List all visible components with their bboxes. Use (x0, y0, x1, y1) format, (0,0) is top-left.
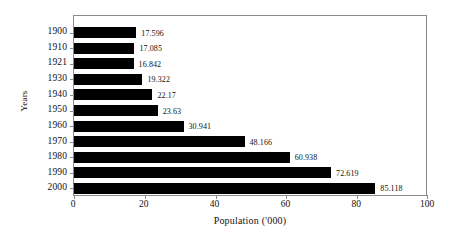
bar-value-label: 60.938 (295, 153, 318, 162)
bar-value-label: 17.596 (141, 28, 164, 37)
x-axis-tick-label: 80 (351, 199, 361, 209)
bar-value-label: 85.118 (380, 184, 402, 193)
bar-row: 19.322 (74, 72, 426, 88)
x-axis-title: Population ('000) (73, 215, 427, 226)
bar-row: 17.596 (74, 25, 426, 41)
bar-value-label: 17.085 (139, 44, 162, 53)
x-axis-tick-label: 60 (281, 199, 291, 209)
bar-chart: Years 1900191019211930194019501960197019… (0, 0, 460, 240)
y-axis-tick-label: 1921 (34, 55, 70, 71)
y-axis-tick-label: 1940 (34, 87, 70, 103)
plot-area: 17.59617.08516.84219.32222.1723.6330.941… (73, 15, 427, 196)
bar-value-label: 19.322 (147, 75, 170, 84)
bar (74, 183, 375, 194)
bar (74, 136, 245, 147)
y-axis-tick-mark (70, 33, 74, 34)
bar-row: 72.619 (74, 165, 426, 181)
bar-row: 30.941 (74, 118, 426, 134)
x-axis-tick-label: 0 (71, 199, 76, 209)
y-axis-tick-mark (70, 126, 74, 127)
y-axis-tick-mark (70, 48, 74, 49)
bar-row: 22.17 (74, 87, 426, 103)
bar (74, 58, 134, 69)
y-axis-tick-mark (70, 111, 74, 112)
y-axis-tick-label: 2000 (34, 180, 70, 196)
bar (74, 74, 142, 85)
x-axis-tick-label: 100 (420, 199, 434, 209)
bar-series: 17.59617.08516.84219.32222.1723.6330.941… (74, 25, 426, 196)
bar-value-label: 23.63 (163, 106, 182, 115)
x-axis-tick-label: 40 (210, 199, 220, 209)
y-axis-tick-label: 1930 (34, 71, 70, 87)
y-axis-tick-label: 1980 (34, 149, 70, 165)
y-axis-tick-label: 1970 (34, 133, 70, 149)
y-axis-tick-label: 1990 (34, 165, 70, 181)
y-axis-tick-mark (70, 64, 74, 65)
y-axis-tick-label: 1960 (34, 118, 70, 134)
bar-value-label: 22.17 (157, 90, 176, 99)
bar (74, 121, 184, 132)
bar (74, 89, 152, 100)
bar-row: 16.842 (74, 56, 426, 72)
bar (74, 27, 136, 38)
y-axis-tick-mark (70, 142, 74, 143)
y-axis-tick-label: 1910 (34, 40, 70, 56)
y-axis-tick-mark (70, 188, 74, 189)
bar-value-label: 16.842 (139, 59, 162, 68)
bar (74, 105, 158, 116)
bar-row: 60.938 (74, 149, 426, 165)
bar-value-label: 30.941 (189, 122, 212, 131)
y-axis-tick-label: 1950 (34, 102, 70, 118)
y-axis-tick-label: 1900 (34, 24, 70, 40)
bar-value-label: 72.619 (336, 168, 359, 177)
bar-value-label: 48.166 (250, 137, 273, 146)
y-axis-tick-labels: 1900191019211930194019501960197019801990… (34, 24, 70, 196)
bar-row: 48.166 (74, 134, 426, 150)
x-axis-tick-labels: 020406080100 (73, 199, 427, 213)
y-axis-tick-mark (70, 95, 74, 96)
bar (74, 152, 290, 163)
bar-row: 23.63 (74, 103, 426, 119)
bar (74, 43, 134, 54)
x-axis-tick-label: 20 (139, 199, 149, 209)
bar-row: 17.085 (74, 41, 426, 57)
y-axis-tick-mark (70, 157, 74, 158)
bar-row: 85.118 (74, 180, 426, 196)
bar (74, 167, 331, 178)
y-axis-title: Years (19, 71, 29, 131)
y-axis-tick-mark (70, 79, 74, 80)
y-axis-tick-mark (70, 173, 74, 174)
